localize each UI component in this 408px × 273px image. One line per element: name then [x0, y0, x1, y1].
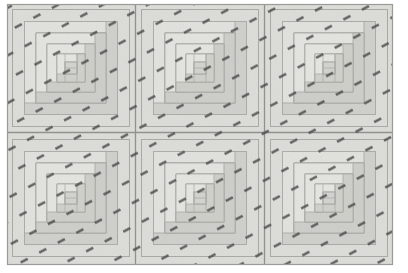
- quilt-photograph: Log Cabin Quilt Pattern Monochrome grey …: [0, 0, 408, 273]
- quilting-stitch-overlay: [7, 4, 393, 265]
- quilt-artwork-svg: Log Cabin Quilt Pattern Monochrome grey …: [0, 0, 408, 273]
- quilt-field: [7, 4, 393, 265]
